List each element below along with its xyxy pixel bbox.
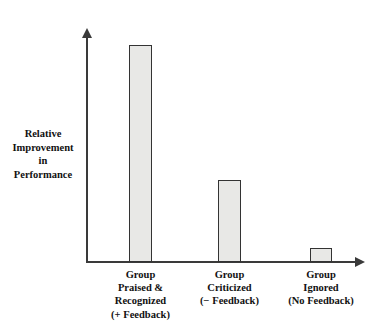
- x-axis-arrow-icon: [355, 257, 365, 267]
- y-axis-line: [86, 36, 88, 263]
- bar-chart: Relative Improvement in Performance Grou…: [0, 0, 390, 330]
- category-2-line-1: Group: [255, 268, 387, 281]
- bar-group-praised: [129, 45, 152, 262]
- y-axis-label-line-1: Relative: [6, 127, 80, 141]
- y-axis-label: Relative Improvement in Performance: [6, 127, 80, 181]
- bar-group-ignored: [310, 248, 332, 262]
- category-2-line-3: (No Feedback): [255, 294, 387, 307]
- category-0-line-4: (+ Feedback): [75, 308, 207, 321]
- y-axis-label-line-3: in: [6, 154, 80, 168]
- category-2-line-2: Ignored: [255, 281, 387, 294]
- x-axis-category-label-ignored: Group Ignored (No Feedback): [255, 268, 387, 308]
- y-axis-label-line-2: Improvement: [6, 141, 80, 155]
- y-axis-label-line-4: Performance: [6, 168, 80, 182]
- bar-group-criticized: [218, 180, 241, 262]
- y-axis-arrow-icon: [82, 28, 92, 38]
